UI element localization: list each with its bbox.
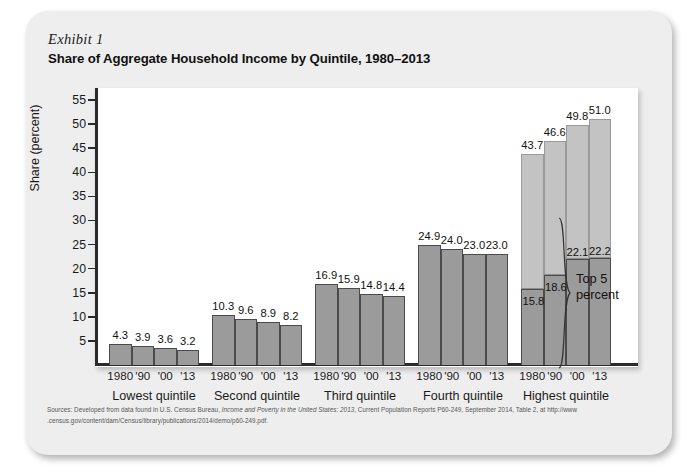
x-axis-labels: 1980'90'00'13Lowest quintile1980'90'00'1…	[95, 369, 655, 409]
source-url-line: .census.gov/content/dam/Census/library/p…	[47, 417, 268, 424]
y-axis-label: Share (percent)	[28, 58, 42, 238]
bar-value-label: 23.0	[481, 239, 514, 251]
x-axis-year-label: '90	[238, 369, 253, 382]
y-axis-tick-label: 20	[60, 263, 86, 275]
bar	[360, 294, 383, 365]
y-axis-tick-label: 10	[60, 311, 86, 323]
bar	[315, 284, 338, 365]
bar	[463, 254, 486, 365]
source-note: Sources: Developed from data found in U.…	[47, 404, 647, 426]
y-axis-tick-label: 5	[60, 335, 86, 347]
bar	[132, 346, 155, 365]
x-axis-year-label: '00	[364, 369, 379, 382]
bar-value-label: 51.0	[584, 104, 617, 116]
x-axis-group-label: Third quintile	[324, 389, 396, 403]
top5-annotation: Top 5 percent	[576, 271, 619, 303]
bar	[235, 319, 258, 365]
y-axis-line	[95, 88, 98, 365]
y-axis-tick-label: 55	[60, 94, 86, 106]
y-axis-tick	[88, 244, 95, 246]
x-axis-year-label: '00	[467, 369, 482, 382]
exhibit-figure: Exhibit 1 Share of Aggregate Household I…	[0, 0, 699, 469]
y-axis-tick	[88, 147, 95, 149]
y-axis-tick	[88, 292, 95, 294]
bar-value-label: 8.2	[275, 310, 308, 322]
y-axis-tick-labels: 510152025303540455055	[56, 88, 86, 367]
x-axis-year-label: 1980	[210, 369, 236, 382]
bar	[154, 348, 177, 365]
x-axis-year-label: 1980	[313, 369, 339, 382]
y-axis-tick-label: 15	[60, 287, 86, 299]
y-axis-label-wrapper: Share (percent)	[36, 88, 56, 367]
y-axis-tick-label: 45	[60, 142, 86, 154]
bar-upper-segment	[589, 119, 612, 258]
bar	[257, 322, 280, 365]
x-axis-year-label: '90	[135, 369, 150, 382]
y-axis-tick	[88, 123, 95, 125]
bar-segment-value-label: 15.8	[523, 295, 545, 307]
x-axis-group-label: Second quintile	[214, 389, 300, 403]
x-axis-year-label: '90	[341, 369, 356, 382]
bar	[418, 245, 441, 365]
plot-area: 4.33.93.63.210.39.68.98.216.915.914.814.…	[95, 88, 638, 367]
bar-upper-segment	[521, 154, 544, 288]
x-axis-year-label: '13	[283, 369, 298, 382]
x-axis-year-label: '00	[158, 369, 173, 382]
y-axis-tick	[88, 340, 95, 342]
y-axis-tick	[88, 172, 95, 174]
bar	[280, 325, 303, 365]
y-axis-tick	[88, 316, 95, 318]
top5-annotation-line1: Top 5	[576, 271, 619, 287]
x-axis-group-label: Fourth quintile	[423, 389, 503, 403]
x-axis-year-label: '90	[547, 369, 562, 382]
x-axis-year-label: '13	[386, 369, 401, 382]
source-suffix: , Current Population Reports P60-249, Se…	[354, 406, 577, 413]
top5-annotation-line2: percent	[576, 287, 619, 303]
x-axis-year-label: 1980	[416, 369, 442, 382]
x-axis-year-label: 1980	[519, 369, 545, 382]
bar-value-label: 14.4	[378, 281, 411, 293]
y-axis-tick	[88, 220, 95, 222]
x-axis-year-label: '90	[444, 369, 459, 382]
x-axis-year-label: '00	[570, 369, 585, 382]
source-publication-title: Income and Poverty in the United States:…	[222, 406, 354, 413]
bar-value-label: 3.2	[172, 335, 205, 347]
x-axis-year-label: '00	[261, 369, 276, 382]
bar	[338, 288, 361, 365]
bar-segment-value-label: 22.2	[589, 245, 611, 257]
source-prefix: Sources: Developed from data found in U.…	[47, 406, 222, 413]
y-axis-tick-label: 40	[60, 166, 86, 178]
y-axis-tick-label: 50	[60, 118, 86, 130]
y-axis-tick-label: 30	[60, 214, 86, 226]
y-axis-tick	[88, 196, 95, 198]
bar	[441, 249, 464, 365]
y-axis-tick	[88, 268, 95, 270]
top5-brace-icon	[558, 217, 571, 369]
bar	[486, 254, 509, 365]
x-axis-year-label: 1980	[107, 369, 133, 382]
y-axis-tick	[88, 99, 95, 101]
y-axis-tick-label: 35	[60, 190, 86, 202]
bar	[109, 344, 132, 365]
exhibit-label: Exhibit 1	[48, 31, 103, 48]
x-axis-group-label: Highest quintile	[523, 389, 609, 403]
bar	[383, 296, 406, 365]
x-axis-year-label: '13	[592, 369, 607, 382]
x-axis-year-label: '13	[489, 369, 504, 382]
x-axis-group-label: Lowest quintile	[112, 389, 195, 403]
y-axis-tick-label: 25	[60, 239, 86, 251]
bar	[212, 315, 235, 365]
chart-title: Share of Aggregate Household Income by Q…	[48, 51, 430, 66]
x-axis-year-label: '13	[180, 369, 195, 382]
bar	[177, 350, 200, 365]
